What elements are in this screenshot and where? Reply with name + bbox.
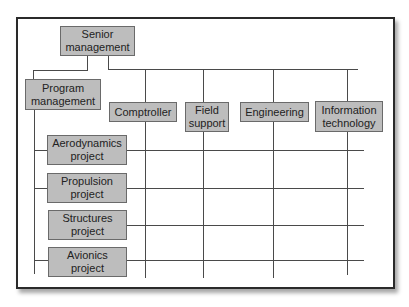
functional-column-line — [145, 69, 146, 278]
senior-management-box: Senior management — [60, 26, 135, 56]
project-row-line — [127, 225, 364, 226]
aerodynamics-project-box: Aerodynamics project — [47, 135, 127, 165]
functional-column-line — [273, 69, 274, 278]
connector-line — [87, 55, 88, 70]
structures-project-box: Structures project — [48, 210, 127, 240]
field-support-box: Field support — [185, 102, 229, 132]
connector-line — [108, 55, 109, 69]
functional-column-line — [203, 69, 204, 278]
comptroller-box: Comptroller — [109, 102, 177, 122]
functional-column-line — [347, 69, 348, 275]
program-spine-line — [34, 109, 35, 274]
connector-line — [33, 70, 34, 79]
information-technology-box: Information technology — [315, 101, 383, 132]
connector-line — [33, 70, 88, 71]
propulsion-project-box: Propulsion project — [47, 173, 127, 203]
program-management-box: Program management — [25, 79, 101, 110]
avionics-project-box: Avionics project — [48, 247, 127, 277]
engineering-box: Engineering — [240, 102, 309, 122]
